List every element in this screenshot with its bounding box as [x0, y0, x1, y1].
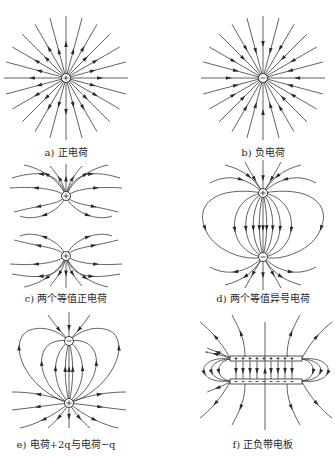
panel-f-charged-plates-field	[200, 315, 332, 430]
panel-d-dipole-field	[202, 160, 323, 290]
caption-e: e) 电荷+2q与电荷−q	[17, 436, 116, 451]
electric-field-figure	[0, 0, 335, 457]
negative-charge-icon	[259, 74, 268, 83]
negative-charge-icon	[259, 253, 268, 262]
caption-d: d) 两个等值异号电荷	[216, 290, 309, 305]
caption-c: c) 两个等值正电荷	[25, 290, 108, 305]
panel-c-two-positive-charges-field	[10, 164, 122, 288]
positive-charge-icon	[62, 74, 71, 83]
positive-charge-icon	[62, 252, 71, 261]
negative-charge-icon	[65, 337, 74, 346]
caption-b: b) 负电荷	[241, 144, 284, 159]
positive-charge-icon	[259, 189, 268, 198]
panel-e-unequal-charges-field	[12, 312, 126, 428]
positive-charge-icon	[65, 399, 74, 408]
positive-charge-icon	[62, 192, 71, 201]
caption-f: f) 正负带电板	[233, 436, 294, 451]
caption-a: a) 正电荷	[44, 144, 87, 159]
